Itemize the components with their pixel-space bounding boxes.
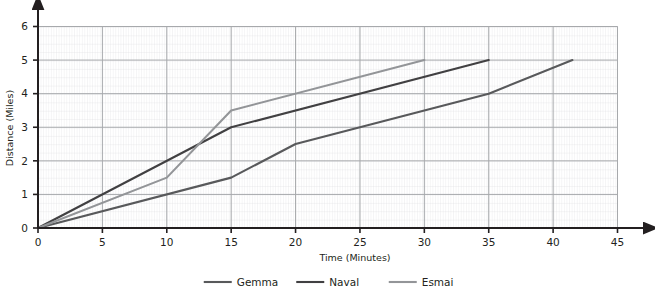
plot-area — [38, 27, 618, 229]
y-tick-label: 4 — [21, 87, 28, 99]
y-tick-label: 3 — [21, 121, 28, 133]
x-tick-label: 20 — [289, 236, 302, 248]
distance-time-line-chart: 051015202530354045 0123456 Time (Minutes… — [0, 0, 655, 299]
y-tick-label: 2 — [21, 155, 28, 167]
x-tick-label: 15 — [224, 236, 237, 248]
x-tick-label: 5 — [99, 236, 106, 248]
legend-label: Esmai — [422, 276, 454, 288]
x-tick-label: 0 — [35, 236, 42, 248]
x-tick-label: 45 — [611, 236, 624, 248]
y-tick-label: 1 — [21, 188, 28, 200]
legend-label: Gemma — [237, 276, 279, 288]
x-tick-label: 35 — [482, 236, 495, 248]
y-tick-label: 0 — [21, 222, 28, 234]
x-tick-label: 25 — [353, 236, 366, 248]
y-tick-label: 6 — [21, 20, 28, 32]
legend-label: Naval — [329, 276, 359, 288]
x-tick-label: 40 — [546, 236, 559, 248]
y-tick-label: 5 — [21, 54, 28, 66]
x-tick-label: 10 — [160, 236, 173, 248]
x-tick-label: 30 — [418, 236, 431, 248]
x-axis-title: Time (Minutes) — [318, 252, 390, 263]
y-axis-title: Distance (Miles) — [4, 90, 15, 166]
